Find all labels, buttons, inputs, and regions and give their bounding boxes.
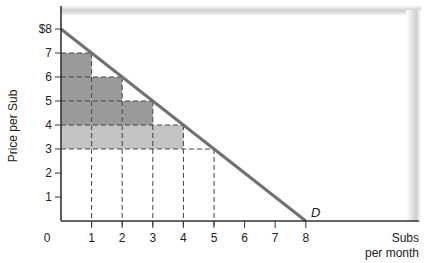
x-tick-label: 3 [149, 231, 156, 245]
y-tick-label: 5 [45, 94, 52, 108]
y-tick-label: 4 [45, 118, 52, 132]
y-tick-label: 6 [45, 70, 52, 84]
origin-label: 0 [44, 231, 51, 245]
y-tick-label: $8 [39, 22, 53, 36]
frame-right-shadow [406, 10, 421, 221]
x-tick-label: 4 [180, 231, 187, 245]
y-axis-title: Price per Sub [6, 89, 20, 162]
x-tick-label: 7 [272, 231, 279, 245]
demand-chart: 1234567$8 12345678 Price per Sub 0 Subs … [0, 0, 434, 263]
x-axis-ticks: 12345678 [88, 221, 309, 245]
y-tick-label: 1 [45, 190, 52, 204]
x-tick-label: 5 [211, 231, 218, 245]
consumer-surplus-step-3 [122, 101, 153, 125]
x-tick-label: 2 [119, 231, 126, 245]
consumer-surplus-step-1 [61, 53, 92, 125]
demand-curve-label: D [311, 205, 320, 220]
y-axis-ticks: 1234567$8 [39, 22, 61, 204]
x-axis-title-line1: Subs [392, 231, 419, 245]
frame-top-shadow [61, 5, 421, 16]
x-tick-label: 8 [302, 231, 309, 245]
y-tick-label: 2 [45, 166, 52, 180]
y-tick-label: 7 [45, 46, 52, 60]
plot-area [61, 29, 306, 229]
x-axis-title-line2: per month [365, 246, 419, 260]
y-tick-label: 3 [45, 142, 52, 156]
x-tick-label: 1 [88, 231, 95, 245]
x-tick-label: 6 [241, 231, 248, 245]
